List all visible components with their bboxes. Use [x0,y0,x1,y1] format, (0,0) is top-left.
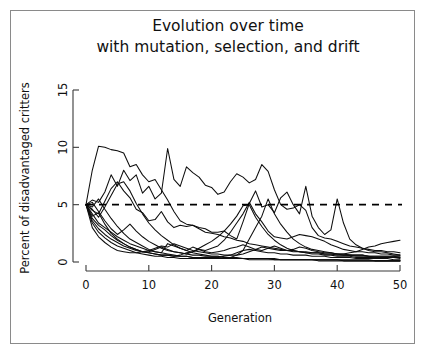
chart-canvas: Evolution over time with mutation, selec… [0,0,427,358]
series-line-run-2 [86,148,400,252]
x-tick-label-10: 10 [141,278,156,292]
chart-title-line-1: Evolution over time [152,17,304,35]
series-lines-group [86,146,400,261]
y-tick-label-5: 5 [56,201,70,208]
chart-title-line-2: with mutation, selection, and drift [96,38,359,56]
x-tick-label-30: 30 [267,278,282,292]
series-line-run-4 [86,202,400,255]
figure-container: Evolution over time with mutation, selec… [0,0,427,358]
y-tick-label-10: 10 [56,140,70,155]
x-axis-title: Generation [208,311,272,325]
x-tick-label-50: 50 [393,278,408,292]
series-line-run-3 [86,182,400,255]
axes-group [73,90,400,271]
x-tick-label-40: 40 [330,278,345,292]
x-tick-label-0: 0 [82,278,89,292]
y-tick-label-15: 15 [56,83,70,98]
y-tick-label-0: 0 [56,258,70,265]
y-axis-title: Percent of disadvantaged critters [18,82,32,274]
x-tick-label-20: 20 [204,278,219,292]
